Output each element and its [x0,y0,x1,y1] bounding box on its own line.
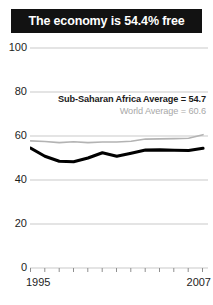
x-tick-label-start: 1995 [26,276,50,288]
page-title: The economy is 54.4% free [28,14,184,28]
chart-figure: The economy is 54.4% free 100 80 60 40 2… [0,0,213,305]
y-tick-label-40: 40 [1,174,27,185]
chart-canvas [30,40,208,272]
y-tick-label-100: 100 [1,42,27,53]
title-banner: The economy is 54.4% free [11,9,202,33]
x-axis-ticks [31,268,203,272]
y-tick-label-0: 0 [1,262,27,273]
x-tick-label-end: 2007 [187,276,211,288]
y-tick-label-60: 60 [1,130,27,141]
x-axis-labels: 1995 2007 [30,276,208,292]
annotation-region-average: Sub-Saharan Africa Average = 54.7 [30,93,206,105]
chart-annotations: Sub-Saharan Africa Average = 54.7 World … [30,93,206,117]
y-axis-labels: 100 80 60 40 20 0 [0,40,27,272]
plot-area [30,40,208,272]
annotation-world-average: World Average = 60.6 [30,105,206,117]
series-line-sub-saharan-africa-average [31,148,204,162]
y-tick-label-20: 20 [1,218,27,229]
gridlines [30,48,208,268]
y-tick-label-80: 80 [1,86,27,97]
